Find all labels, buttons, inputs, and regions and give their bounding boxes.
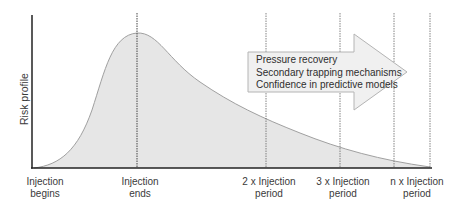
y-axis-label: Risk profile xyxy=(18,73,30,125)
xlabel-3x-period: 3 x Injection period xyxy=(303,176,383,200)
arrow-line-secondary-trapping: Secondary trapping mechanisms xyxy=(256,67,402,80)
xlabel-2x-period: 2 x Injection period xyxy=(229,176,309,200)
arrow-line-pressure-recovery: Pressure recovery xyxy=(256,54,402,67)
arrow-annotation: Pressure recovery Secondary trapping mec… xyxy=(256,54,402,92)
xlabel-injection-begins: Injection begins xyxy=(5,176,85,200)
arrow-line-confidence-models: Confidence in predictive models xyxy=(256,79,402,92)
risk-profile-chart xyxy=(0,0,459,205)
xlabel-nx-period: n x Injection period xyxy=(377,176,457,200)
xlabel-injection-ends: Injection ends xyxy=(100,176,180,200)
